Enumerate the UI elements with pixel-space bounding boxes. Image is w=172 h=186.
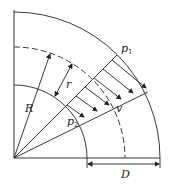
r-label: r [66,78,72,91]
lower-radial-line [14,92,148,158]
R-label: R [24,102,33,115]
v-label: v [116,102,123,115]
p2-label: p2 [67,115,79,129]
bend-diagram: p1 p2 R r v D [0,0,172,186]
p1-label: p1 [121,42,133,56]
diagram-canvas: p1 p2 R r v D [0,0,172,186]
D-label: D [120,168,130,181]
